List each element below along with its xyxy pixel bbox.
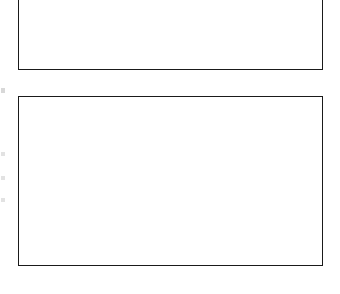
main-chart-panel bbox=[18, 96, 323, 266]
edge-artifact-top bbox=[1, 88, 5, 93]
edge-artifact-lower bbox=[1, 176, 5, 180]
main-chart-x-axis bbox=[18, 266, 323, 280]
top-chart-panel bbox=[18, 0, 323, 70]
main-chart-plot-area bbox=[19, 97, 322, 265]
edge-artifact-mid bbox=[1, 152, 5, 156]
top-chart-plot-area bbox=[19, 0, 322, 68]
edge-artifact-bottom bbox=[1, 198, 5, 202]
